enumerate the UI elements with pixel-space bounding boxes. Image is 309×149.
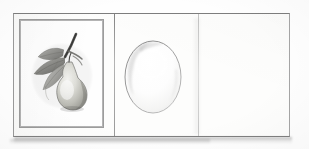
panel-blank [199, 14, 289, 136]
fold-line-2 [198, 14, 199, 136]
paper-sheet [13, 13, 290, 137]
pear-drawing [20, 20, 105, 129]
panel-pear-botanical-drawing [14, 14, 114, 136]
panel-egg-oval-study [115, 14, 198, 136]
drawing-frame-outer [19, 19, 104, 128]
egg-highlight [135, 49, 167, 79]
scanned-page [0, 0, 309, 149]
pear-highlight [60, 80, 74, 100]
fold-line-1 [114, 14, 115, 136]
egg-oval-drawing [115, 14, 198, 138]
page-base-shadow-secondary [10, 139, 210, 144]
